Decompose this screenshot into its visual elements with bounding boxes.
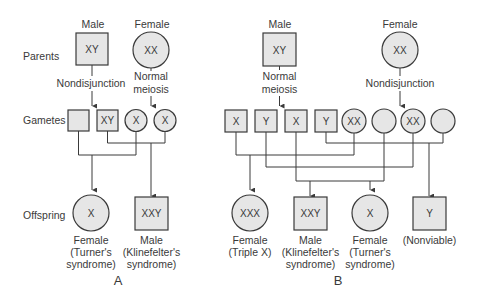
panel-a: Male XY Female XX Nondisjunction Normal … (57, 18, 181, 288)
panel-b-gamete-4-genotype: Y (323, 116, 330, 127)
panel-b-gamete-3-genotype: X (293, 116, 300, 127)
panel-a-gamete-1-square (68, 110, 89, 131)
panel-b-gamete-6-circle (372, 109, 396, 133)
panel-a-female-process-line2: meiosis (133, 83, 169, 95)
panel-b-offspring-4-genotype: Y (426, 208, 433, 219)
panel-b-gamete-8-circle (431, 109, 455, 133)
panel-b-label: B (334, 273, 343, 288)
panel-b-offspring-2-sex: Male (299, 234, 322, 246)
panel-b-offspring-4-desc: (Nonviable) (403, 234, 457, 246)
panel-b-male-process-line2: meiosis (262, 83, 298, 95)
panel-a-label: A (114, 273, 123, 288)
panel-a-offspring-2-desc2: syndrome) (127, 258, 177, 270)
panel-b-offspring-2-genotype: XXY (300, 208, 320, 219)
panel-b-offspring-1-sex: Female (232, 234, 267, 246)
panel-b-gamete-7-genotype: XX (406, 116, 420, 127)
panel-a-male-genotype: XY (85, 44, 99, 55)
panel-b-offspring-2-desc2: syndrome) (286, 258, 336, 270)
panel-b-gamete-1-genotype: X (233, 116, 240, 127)
panel-b-female-genotype: XX (393, 45, 407, 56)
panel-a-offspring-2-sex: Male (140, 234, 163, 246)
panel-a-male-process: Nondisjunction (57, 77, 126, 89)
panel-a-female-process-line1: Normal (134, 70, 168, 82)
panel-a-gamete-2-genotype: XY (101, 115, 115, 126)
panel-b-offspring-1-desc1: (Triple X) (229, 246, 272, 258)
panel-a-offspring-2-genotype: XXY (141, 208, 161, 219)
panel-a-offspring-1-desc2: syndrome) (66, 258, 116, 270)
panel-b-offspring-3-desc2: syndrome) (345, 258, 395, 270)
nondisjunction-diagram: Parents Gametes Offspring Male XY Female… (0, 0, 479, 298)
panel-b-gamete-2-genotype: Y (263, 116, 270, 127)
panel-a-offspring-2-desc1: (Klinefelter's (123, 246, 180, 258)
panel-a-gamete-3-genotype: X (133, 115, 140, 126)
panel-b-offspring-2-desc1: (Klinefelter's (282, 246, 339, 258)
panel-a-offspring-1-sex: Female (73, 234, 108, 246)
panel-b-offspring-1-genotype: XXX (240, 208, 260, 219)
panel-b: Male XY Female XX Normal meiosis Nondisj… (225, 18, 456, 288)
row-label-offspring: Offspring (23, 209, 66, 221)
panel-a-gamete-4-genotype: X (162, 115, 169, 126)
panel-b-offspring-3-sex: Female (352, 234, 387, 246)
panel-b-gamete-5-genotype: XX (347, 116, 361, 127)
panel-b-offspring-3-desc1: (Turner's (349, 246, 390, 258)
panel-b-offspring-3-genotype: X (367, 208, 374, 219)
panel-a-male-label: Male (82, 18, 105, 30)
row-label-parents: Parents (23, 50, 59, 62)
panel-b-female-process: Nondisjunction (366, 77, 435, 89)
panel-b-male-process-line1: Normal (263, 70, 297, 82)
panel-a-offspring-1-desc1: (Turner's (70, 246, 111, 258)
row-label-gametes: Gametes (23, 114, 66, 126)
panel-a-offspring-1-genotype: X (88, 208, 95, 219)
panel-b-female-label: Female (382, 18, 417, 30)
panel-a-female-genotype: XX (144, 45, 158, 56)
panel-b-male-label: Male (269, 18, 292, 30)
panel-a-female-label: Female (134, 18, 169, 30)
panel-b-male-genotype: XY (273, 45, 287, 56)
